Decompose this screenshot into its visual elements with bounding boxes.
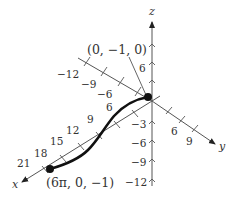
tick-label: −12 <box>125 176 147 188</box>
3d-plot: z y x (0, −1, 0) (6π, 0, −1) −12 −9 −6 6… <box>0 0 232 210</box>
tick-label: −6 <box>97 88 113 100</box>
tick-label: 9 <box>87 113 94 125</box>
start-point-marker <box>144 93 152 101</box>
tick-label: −9 <box>81 78 96 90</box>
tick-label: 21 <box>17 157 30 169</box>
y-axis-label: y <box>218 140 226 153</box>
tick-label: −12 <box>57 68 79 80</box>
tick-label: 15 <box>50 135 63 147</box>
tick-label: 6 <box>106 101 113 113</box>
x-axis-label: x <box>12 178 19 191</box>
tick-label: 18 <box>34 147 47 159</box>
tick-label: 6 <box>171 125 178 137</box>
tick-label: 9 <box>186 135 193 147</box>
y-axis <box>152 96 215 144</box>
tick-label: 12 <box>66 124 79 136</box>
start-point-label: (0, −1, 0) <box>87 42 147 57</box>
z-axis <box>149 22 155 186</box>
tick-label: −6 <box>131 137 147 149</box>
z-axis-label: z <box>148 5 155 18</box>
end-point-marker <box>46 165 54 173</box>
tick-label: −3 <box>131 118 146 130</box>
end-point-label: (6π, 0, −1) <box>46 175 114 190</box>
tick-label: −9 <box>131 156 146 168</box>
tick-label: 6 <box>139 62 146 74</box>
